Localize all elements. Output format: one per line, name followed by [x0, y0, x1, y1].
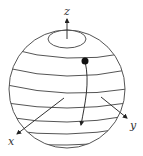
- latitude-line: [7, 141, 127, 145]
- diagram-canvas: z x y: [0, 0, 143, 156]
- z-axis-label: z: [63, 5, 70, 18]
- latitude-line: [7, 68, 127, 76]
- latitude-line: [7, 85, 127, 93]
- latitude-line: [7, 116, 127, 122]
- x-axis-label: x: [8, 135, 15, 148]
- latitude-lines: [7, 48, 127, 145]
- start-point-dot: [82, 58, 89, 65]
- y-axis-label: y: [129, 119, 137, 132]
- latitude-line: [7, 128, 127, 134]
- x-axis-arrow: [17, 98, 64, 134]
- sphere-diagram: z x y: [0, 0, 143, 156]
- latitude-line: [7, 48, 127, 58]
- y-axis-arrow: [101, 97, 127, 118]
